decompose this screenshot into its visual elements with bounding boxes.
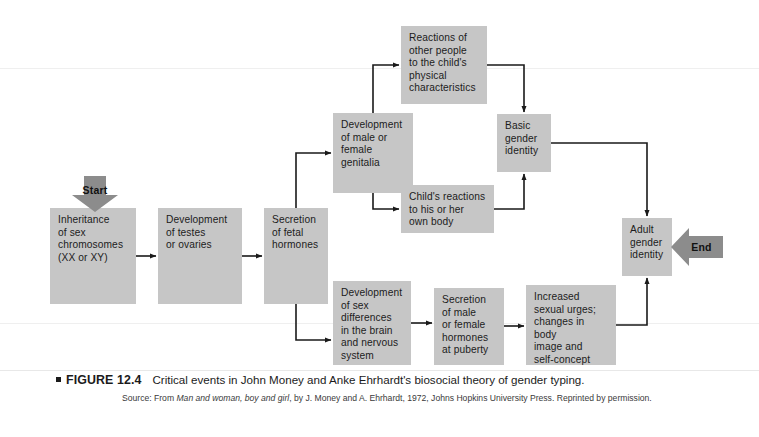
node-basic-gender-identity[interactable]: Basic gender identity — [497, 114, 551, 172]
figure-source: Source: From Man and woman, boy and girl… — [122, 392, 682, 406]
caption-divider — [0, 370, 759, 371]
end-terminator-arrow: End — [671, 228, 723, 266]
figure-caption: FIGURE 12.4 Critical events in John Mone… — [56, 372, 696, 406]
source-prefix: Source: From — [122, 393, 176, 403]
start-terminator-arrow: Start — [72, 176, 118, 212]
figure-title: Critical events in John Money and Anke E… — [146, 372, 584, 387]
node-development-of-testes[interactable]: Development of testes or ovaries — [158, 208, 242, 304]
end-label: End — [691, 241, 711, 253]
node-secretion-hormones-at-puberty[interactable]: Secretion of male or female hormones at … — [434, 288, 504, 365]
source-suffix: , by J. Money and A. Ehrhardt, 1972, Joh… — [289, 393, 554, 403]
node-inheritance[interactable]: Inheritance of sex chromosomes (XX or XY… — [50, 208, 136, 304]
figure-container: Inheritance of sex chromosomes (XX or XY… — [0, 0, 759, 437]
figure-number: FIGURE 12.4 — [66, 373, 141, 388]
source-italic-title: Man and woman, boy and girl — [176, 393, 289, 403]
node-increased-sexual-urges[interactable]: Increased sexual urges; changes in body … — [526, 285, 616, 365]
node-development-of-genitalia[interactable]: Development of male or female genitalia — [333, 113, 413, 193]
node-childs-reactions[interactable]: Child's reactions to his or her own body — [401, 185, 494, 233]
node-adult-gender-identity[interactable]: Adult gender identity — [622, 218, 672, 276]
start-label: Start — [83, 184, 108, 196]
node-secretion-of-fetal-hormones[interactable]: Secretion of fetal hormones — [264, 208, 328, 304]
square-bullet-icon — [56, 377, 61, 382]
node-reactions-of-other-people[interactable]: Reactions of other people to the child's… — [401, 26, 487, 104]
node-development-of-sex-differences[interactable]: Development of sex differences in the br… — [333, 281, 411, 365]
source-permission: Reprinted by permission. — [557, 393, 652, 403]
